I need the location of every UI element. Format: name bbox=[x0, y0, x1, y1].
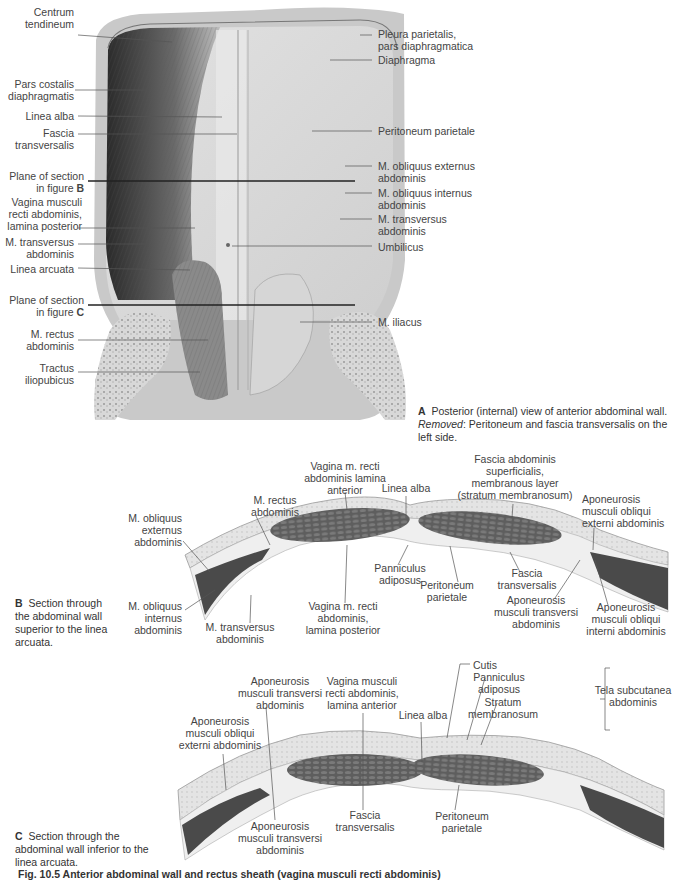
label-m-rectus: M. rectus abdominis bbox=[0, 328, 74, 352]
label-b-aponeurosis-transversi: Aponeurosis musculi transversi abdominis bbox=[486, 594, 586, 630]
label-pleura-parietalis: Pleura parietalis, pars diaphragmatica bbox=[378, 28, 473, 52]
label-b-aponeurosis-obliqui-externi: Aponeurosis musculi obliqui externi abdo… bbox=[582, 493, 664, 529]
label-b-linea-alba: Linea alba bbox=[376, 482, 436, 494]
label-b-m-rectus: M. rectus abdominis bbox=[240, 494, 310, 518]
caption-figure-a: A Posterior (internal) view of anterior … bbox=[418, 405, 668, 444]
label-c-peritoneum: Peritoneum parietale bbox=[428, 810, 496, 834]
label-plane-b: Plane of section in figure B bbox=[0, 170, 84, 194]
label-centrum-tendineum: Centrum tendineum bbox=[0, 6, 74, 30]
label-diaphragma: Diaphragma bbox=[378, 54, 435, 66]
label-linea-alba: Linea alba bbox=[0, 110, 74, 122]
label-b-aponeurosis-obliqui-interni: Aponeurosis musculi obliqui interni abdo… bbox=[578, 601, 674, 637]
label-b-fascia-transversalis: Fascia transversalis bbox=[490, 567, 564, 591]
label-m-iliacus: M. iliacus bbox=[378, 316, 422, 328]
label-plane-c: Plane of section in figure C bbox=[0, 294, 84, 318]
label-b-fascia-superficialis: Fascia abdominis superficialis, membrano… bbox=[445, 453, 585, 501]
label-b-vagina-posterior: Vagina m. recti abdominis, lamina poster… bbox=[298, 600, 388, 636]
label-b-peritoneum: Peritoneum parietale bbox=[414, 579, 480, 603]
label-c-fascia-transversalis: Fascia transversalis bbox=[325, 809, 405, 833]
figure-caption: Fig. 10.5 Anterior abdominal wall and re… bbox=[18, 868, 441, 880]
label-m-transversus-right: M. transversus abdominis bbox=[378, 213, 447, 237]
label-m-transversus-left: M. transversus abdominis bbox=[0, 236, 74, 260]
label-b-m-transversus: M. transversus abdominis bbox=[195, 621, 285, 645]
label-m-obliquus-externus: M. obliquus externus abdominis bbox=[378, 160, 475, 184]
label-linea-arcuata: Linea arcuata bbox=[0, 263, 74, 275]
label-c-cutis: Cutis bbox=[473, 659, 497, 671]
label-b-m-obliquus-internus: M. obliquus internus abdominis bbox=[110, 600, 182, 636]
label-peritoneum-parietale: Peritoneum parietale bbox=[378, 125, 475, 137]
label-c-vagina-anterior: Vagina musculi recti abdominis, lamina a… bbox=[310, 675, 414, 711]
caption-figure-b: B Section through the abdominal wall sup… bbox=[15, 597, 115, 649]
label-pars-costalis: Pars costalis diaphragmatis bbox=[0, 78, 74, 102]
label-umbilicus: Umbilicus bbox=[378, 241, 424, 253]
label-c-stratum-membranosum: Stratum membranosum bbox=[462, 696, 544, 720]
figure-a-illustration bbox=[0, 0, 679, 420]
label-fascia-transversalis: Fascia transversalis bbox=[0, 127, 74, 151]
label-b-m-obliquus-externus: M. obliquus externus abdominis bbox=[110, 512, 182, 548]
label-vagina-lamina-posterior: Vagina musculi recti abdominis, lamina p… bbox=[0, 196, 82, 232]
caption-figure-c: C Section through the abdominal wall inf… bbox=[15, 830, 155, 869]
label-c-aponeurosis-transversi-bottom: Aponeurosis musculi transversi abdominis bbox=[228, 820, 332, 856]
label-c-tela-subcutanea: Tela subcutanea abdominis bbox=[583, 684, 679, 708]
label-c-linea-alba: Linea alba bbox=[393, 709, 453, 721]
label-c-panniculus: Panniculus adiposus bbox=[466, 671, 532, 695]
label-c-aponeurosis-obliqui-externi: Aponeurosis musculi obliqui externi abdo… bbox=[170, 715, 270, 751]
label-m-obliquus-internus: M. obliquus internus abdominis bbox=[378, 187, 472, 211]
label-tractus-iliopubicus: Tractus iliopubicus bbox=[0, 362, 74, 386]
